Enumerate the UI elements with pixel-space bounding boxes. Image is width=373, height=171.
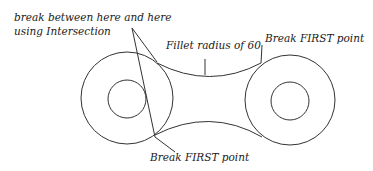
right-outer-circle [245,55,335,145]
left-outer-circle [81,52,173,144]
fillet-label: Fillet radius of 60 [166,39,261,51]
intersection-label-line2: using Intersection [14,25,111,37]
break-top-label: Break FIRST point [265,32,364,44]
break-bottom-label: Break FIRST point [150,151,249,163]
intersection-label-line1: break between here and here [14,11,171,23]
left-inner-circle [108,80,146,118]
break-top-leader [261,45,262,63]
right-inner-circle [271,82,309,120]
break-bottom-leader [155,137,175,152]
bottom-fillet-arc [155,121,262,137]
top-fillet-arc [157,63,261,77]
